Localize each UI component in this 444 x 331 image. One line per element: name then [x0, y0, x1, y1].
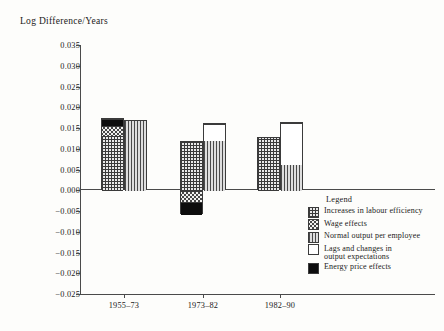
legend-swatch-grid: [308, 207, 319, 218]
segment-divider: [102, 119, 123, 120]
y-axis-tick-mark: [76, 66, 80, 67]
y-axis-tick-mark: [76, 253, 80, 254]
y-axis-tick-mark: [76, 149, 80, 150]
bar-1955–73-actual: [101, 118, 124, 191]
y-axis-tick-label: 0.030: [0, 61, 87, 70]
x-axis-tick-mark: [203, 294, 204, 298]
legend-item: Increases in labour efficiency: [308, 207, 423, 218]
y-axis-tick-mark: [76, 232, 80, 233]
bar-1982–90-normal: [280, 122, 303, 190]
y-axis-tick-mark: [76, 170, 80, 171]
legend-item: Wage effects: [308, 219, 423, 230]
y-axis-title: Log Difference/Years: [20, 16, 108, 26]
y-axis-tick-label: 0.015: [0, 124, 87, 133]
legend-label-line1: Normal output per employee: [324, 232, 420, 240]
bar-segment: [181, 202, 202, 214]
chart-container: Log Difference/Years 0.0350.0300.0250.02…: [0, 0, 444, 331]
segment-divider: [181, 202, 202, 203]
y-axis-tick-mark: [76, 87, 80, 88]
legend-item-label: Lags and changes inoutput expectations: [324, 244, 392, 261]
x-axis-line: [80, 294, 435, 295]
y-axis-tick-mark: [76, 45, 80, 46]
y-axis-tick-label: −0.020: [0, 269, 87, 278]
segment-divider: [281, 123, 302, 124]
legend-swatch-vertical-lines: [308, 232, 319, 243]
bar-segment: [181, 142, 202, 191]
segment-divider: [102, 126, 123, 127]
legend-label-line1: Energy price effects: [324, 263, 391, 271]
y-axis-tick-mark: [76, 273, 80, 274]
bar-1973–82-normal: [203, 123, 226, 191]
legend-label-line2: output expectations: [324, 253, 392, 261]
segment-divider: [181, 191, 202, 192]
legend-title: Legend: [326, 196, 423, 205]
y-axis-tick-label: 0.010: [0, 144, 87, 153]
x-axis-tick-mark: [280, 294, 281, 298]
y-axis-tick-label: 0.000: [0, 186, 87, 195]
x-axis-tick-label: 1973–82: [188, 301, 218, 310]
bar-segment: [204, 124, 225, 142]
legend: Legend Increases in labour efficiencyWag…: [308, 196, 423, 275]
legend-item: Normal output per employee: [308, 232, 423, 243]
y-axis-tick-label: −0.010: [0, 227, 87, 236]
bar-segment: [258, 138, 279, 191]
bar-segment: [102, 119, 123, 126]
bar-segment: [125, 121, 146, 192]
x-axis-tick-label: 1955–73: [109, 301, 139, 310]
y-axis-tick-mark: [76, 107, 80, 108]
legend-item: Energy price effects: [308, 263, 423, 274]
bar-segment: [281, 165, 302, 191]
segment-divider: [204, 124, 225, 125]
legend-items: Increases in labour efficiencyWage effec…: [308, 207, 423, 274]
y-axis-tick-mark: [76, 128, 80, 129]
y-axis-tick-label: −0.015: [0, 248, 87, 257]
legend-swatch-black: [308, 263, 319, 274]
legend-swatch-white: [308, 244, 319, 255]
y-axis-tick-label: 0.020: [0, 103, 87, 112]
bar-segment: [281, 123, 302, 165]
legend-item-label: Energy price effects: [324, 263, 391, 272]
bar-1973–82-actual: [180, 141, 203, 214]
bar-segment: [102, 126, 123, 136]
x-axis-tick-label: 1982–90: [265, 301, 295, 310]
legend-label-line1: Increases in labour efficiency: [324, 207, 423, 215]
bar-1982–90-actual: [257, 137, 280, 190]
legend-item-label: Increases in labour efficiency: [324, 207, 423, 216]
legend-item-label: Wage effects: [324, 219, 367, 228]
bar-1955–73-normal: [124, 120, 147, 191]
y-axis-tick-label: 0.035: [0, 41, 87, 50]
legend-item: Lags and changes inoutput expectations: [308, 244, 423, 261]
legend-swatch-dots: [308, 219, 319, 230]
bar-segment: [204, 141, 225, 191]
y-axis-tick-mark: [76, 211, 80, 212]
y-axis-tick-label: 0.005: [0, 165, 87, 174]
legend-label-line1: Wage effects: [324, 220, 367, 228]
y-axis-tick-label: −0.025: [0, 290, 87, 299]
y-axis-tick-label: 0.025: [0, 82, 87, 91]
bar-segment: [181, 191, 202, 202]
legend-item-label: Normal output per employee: [324, 232, 420, 241]
y-axis-tick-mark: [76, 294, 80, 295]
x-axis-tick-mark: [124, 294, 125, 298]
bar-segment: [102, 136, 123, 191]
y-axis-tick-label: −0.005: [0, 207, 87, 216]
y-axis-tick-mark: [76, 190, 80, 191]
